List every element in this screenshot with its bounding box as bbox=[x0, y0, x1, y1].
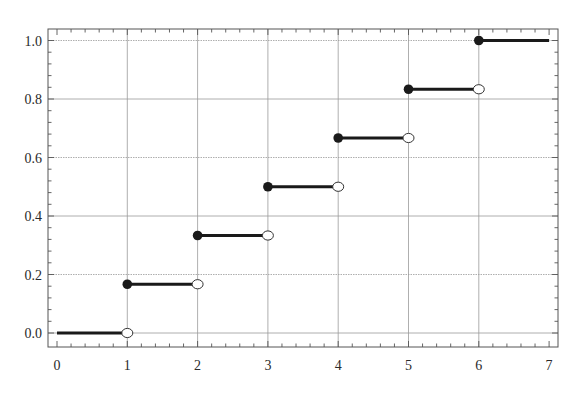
open-point-marker bbox=[473, 85, 484, 94]
closed-point-marker bbox=[123, 279, 133, 289]
x-tick-label: 2 bbox=[194, 358, 201, 373]
y-tick-label: 0.0 bbox=[25, 326, 43, 341]
x-tick-label: 1 bbox=[124, 358, 131, 373]
closed-point-marker bbox=[474, 36, 484, 46]
x-axis-tick-labels: 01234567 bbox=[54, 358, 553, 373]
y-tick-label: 0.2 bbox=[25, 268, 43, 283]
open-point-marker bbox=[192, 280, 203, 289]
y-tick-label: 0.8 bbox=[25, 92, 43, 107]
y-tick-label: 1.0 bbox=[25, 34, 43, 49]
y-tick-label: 0.4 bbox=[25, 209, 43, 224]
open-point-marker bbox=[262, 231, 273, 240]
step-function-chart: 01234567 0.00.20.40.60.81.0 bbox=[0, 0, 576, 393]
x-tick-label: 3 bbox=[264, 358, 271, 373]
closed-point-marker bbox=[193, 231, 203, 241]
x-tick-label: 4 bbox=[335, 358, 342, 373]
x-tick-label: 5 bbox=[405, 358, 412, 373]
x-tick-label: 0 bbox=[54, 358, 61, 373]
x-tick-label: 6 bbox=[475, 358, 482, 373]
closed-point-marker bbox=[404, 84, 414, 94]
step-series bbox=[57, 36, 549, 338]
open-point-marker bbox=[333, 182, 344, 191]
x-tick-label: 7 bbox=[546, 358, 553, 373]
open-point-marker bbox=[403, 133, 414, 142]
y-axis-tick-labels: 0.00.20.40.60.81.0 bbox=[25, 34, 43, 342]
open-point-marker bbox=[122, 328, 133, 337]
closed-point-marker bbox=[263, 182, 273, 192]
y-tick-label: 0.6 bbox=[25, 151, 43, 166]
closed-point-marker bbox=[333, 133, 343, 143]
